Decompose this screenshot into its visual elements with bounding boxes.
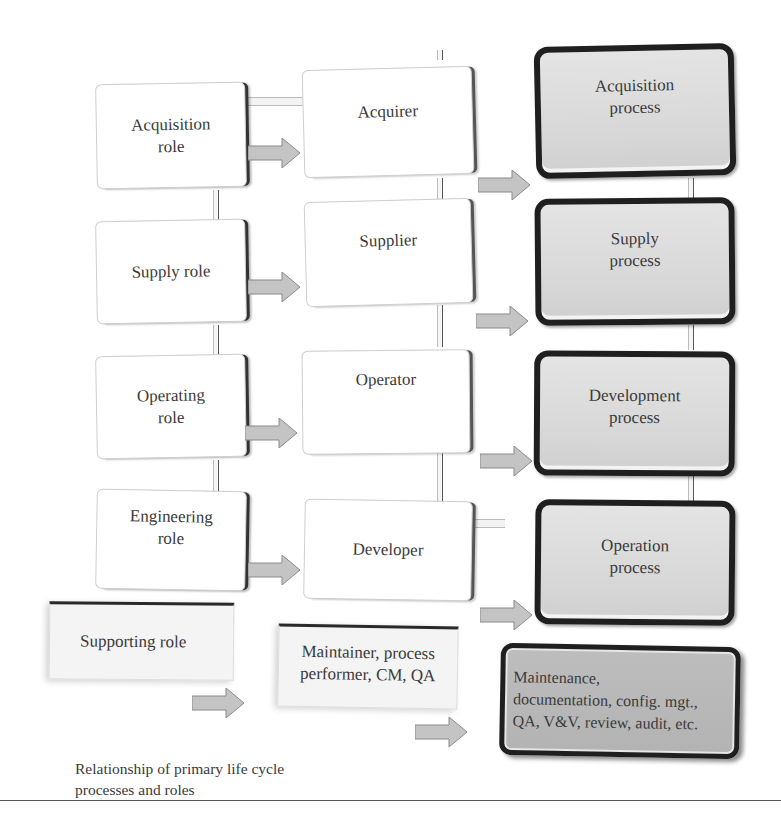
role-operating[interactable]: Operating role bbox=[95, 354, 247, 460]
connector bbox=[437, 178, 443, 200]
connector bbox=[475, 519, 505, 528]
actor-label: Maintainer, process performer, CM, QA bbox=[300, 640, 436, 686]
arrow-right-icon bbox=[476, 306, 528, 336]
actor-operator[interactable]: Operator bbox=[302, 349, 471, 454]
arrow-right-icon bbox=[480, 600, 532, 630]
arrow-right-icon bbox=[245, 418, 297, 448]
process-label: Operation process bbox=[601, 534, 669, 579]
role-label: Supporting role bbox=[80, 630, 186, 653]
role-acquisition[interactable]: Acquisition role bbox=[95, 82, 247, 190]
actor-developer[interactable]: Developer bbox=[303, 499, 473, 602]
connector bbox=[248, 97, 303, 106]
connector bbox=[213, 325, 219, 357]
role-label: Acquisition role bbox=[131, 113, 211, 158]
actor-maintainer[interactable]: Maintainer, process performer, CM, QA bbox=[277, 623, 458, 709]
process-label: Maintenance, documentation, config. mgt.… bbox=[512, 666, 699, 735]
figure-caption: Relationship of primary life cycle proce… bbox=[75, 758, 284, 800]
actor-supplier[interactable]: Supplier bbox=[304, 198, 474, 307]
arrow-right-icon bbox=[478, 170, 530, 200]
connector bbox=[213, 190, 219, 222]
process-supply[interactable]: Supply process bbox=[534, 197, 735, 326]
process-label: Acquisition process bbox=[595, 74, 675, 120]
arrow-right-icon bbox=[248, 138, 300, 168]
divider bbox=[0, 800, 781, 801]
process-supporting[interactable]: Maintenance, documentation, config. mgt.… bbox=[499, 643, 741, 759]
role-label: Operating role bbox=[137, 384, 206, 429]
actor-acquirer[interactable]: Acquirer bbox=[302, 66, 475, 178]
actor-label: Acquirer bbox=[357, 100, 418, 124]
role-label: Engineering role bbox=[129, 505, 213, 550]
arrow-right-icon bbox=[248, 555, 300, 585]
process-acquisition[interactable]: Acquisition process bbox=[534, 43, 737, 179]
role-engineering[interactable]: Engineering role bbox=[95, 489, 247, 592]
role-supply[interactable]: Supply role bbox=[95, 219, 247, 325]
role-label: Supply role bbox=[131, 260, 210, 283]
role-supporting[interactable]: Supporting role bbox=[49, 601, 235, 681]
actor-label: Supplier bbox=[359, 229, 417, 253]
actor-label: Operator bbox=[355, 369, 416, 392]
connector bbox=[213, 460, 219, 492]
process-label: Supply process bbox=[609, 227, 660, 271]
connector bbox=[437, 50, 443, 60]
process-label: Development process bbox=[589, 384, 681, 428]
connector bbox=[437, 305, 443, 347]
actor-label: Developer bbox=[352, 538, 423, 561]
connector bbox=[688, 476, 694, 501]
arrow-right-icon bbox=[480, 446, 532, 476]
arrow-right-icon bbox=[192, 688, 244, 718]
process-operation[interactable]: Operation process bbox=[534, 499, 735, 626]
arrow-right-icon bbox=[415, 717, 467, 747]
connector bbox=[688, 325, 694, 350]
connector bbox=[437, 453, 443, 503]
process-development[interactable]: Development process bbox=[534, 350, 736, 476]
arrow-right-icon bbox=[248, 272, 300, 302]
